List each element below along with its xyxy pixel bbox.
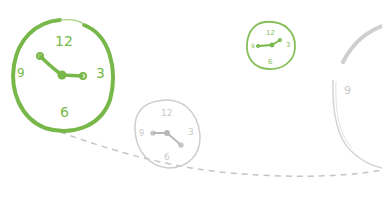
numeral-6: 6 [268,58,273,66]
numeral-12: 12 [266,29,275,37]
numeral-6: 6 [60,104,69,120]
clocks-illustration: 12 3 6 9 12 3 6 9 12 3 6 9 [0,0,382,197]
large-green-clock: 12 3 6 9 [13,20,113,131]
numeral-3: 3 [188,127,194,137]
numeral-6: 6 [164,152,170,162]
small-green-clock: 12 3 6 9 [247,22,295,69]
numeral-9: 9 [139,129,144,138]
dashed-path [60,132,382,176]
numeral-9: 9 [251,42,255,49]
numeral-9: 9 [344,84,351,97]
numeral-3: 3 [96,65,105,81]
partial-gray-clock: 9 [333,26,382,168]
numeral-3: 3 [286,41,290,49]
numeral-9: 9 [17,66,25,80]
numeral-12: 12 [161,108,172,118]
numeral-12: 12 [55,33,73,49]
